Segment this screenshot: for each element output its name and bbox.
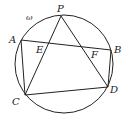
label-D: D xyxy=(109,84,118,95)
segment-CD xyxy=(25,87,108,95)
label-omega: ω xyxy=(26,13,33,22)
label-E: E xyxy=(35,44,44,55)
label-C: C xyxy=(12,96,20,107)
label-A: A xyxy=(8,34,16,45)
circle-omega xyxy=(15,15,113,113)
geometry-diagram: ω P A B C D E F xyxy=(0,0,131,121)
label-F: F xyxy=(90,49,99,60)
label-B: B xyxy=(113,44,121,55)
segment-AC xyxy=(21,40,25,95)
segment-PD xyxy=(61,16,108,87)
label-P: P xyxy=(56,3,64,14)
